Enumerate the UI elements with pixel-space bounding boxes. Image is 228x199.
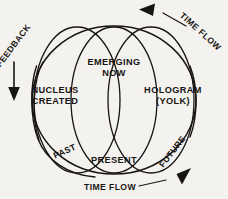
label-hologram-line2: (YOLK)	[144, 96, 202, 107]
time-flow-top-arrow	[139, 4, 155, 17]
label-hologram-line1: HOLOGRAM	[144, 85, 202, 96]
diagram-canvas: NUCLEUS CREATED EMERGING NOW HOLOGRAM (Y…	[0, 0, 228, 199]
time-flow-bottom-arrow	[177, 168, 192, 185]
label-nucleus-created: NUCLEUS CREATED	[31, 85, 78, 106]
label-time-flow-bottom: TIME FLOW	[84, 183, 136, 193]
label-emerging-now: EMERGING NOW	[87, 57, 140, 78]
outer-ellipse-feedback-band	[32, 66, 95, 177]
label-emerging-line2: NOW	[87, 68, 140, 79]
label-emerging-line1: EMERGING	[87, 57, 140, 68]
label-nucleus-line2: CREATED	[31, 96, 78, 107]
label-nucleus-line1: NUCLEUS	[31, 85, 78, 96]
label-hologram-yolk: HOLOGRAM (YOLK)	[144, 85, 202, 106]
time-flow-bottom-pointer	[139, 180, 166, 186]
label-present: PRESENT	[91, 155, 137, 166]
feedback-arrow	[8, 87, 20, 101]
